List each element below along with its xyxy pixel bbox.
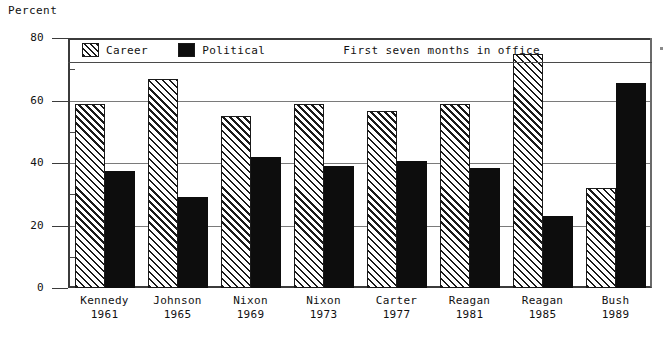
- bar-chart: Percent 020406080 Career Political First…: [0, 0, 668, 337]
- bar-group: [141, 38, 214, 288]
- bar-political: [397, 161, 427, 288]
- x-axis-label: Carter1977: [360, 294, 433, 322]
- bar-group: [579, 38, 652, 288]
- x-axis-label: Johnson1965: [141, 294, 214, 322]
- x-label-name: Nixon: [287, 294, 360, 308]
- bar-career: [513, 54, 543, 288]
- y-tick-mark: [52, 101, 68, 102]
- y-tick-label: 0: [10, 282, 44, 293]
- bar-political: [178, 197, 208, 288]
- x-label-name: Reagan: [433, 294, 506, 308]
- bar-political: [616, 83, 646, 288]
- bar-career: [294, 104, 324, 288]
- x-label-year: 1969: [214, 308, 287, 322]
- x-label-year: 1961: [68, 308, 141, 322]
- bar-career: [440, 104, 470, 288]
- bar-career: [148, 79, 178, 288]
- x-axis-label: Nixon1973: [287, 294, 360, 322]
- x-label-year: 1973: [287, 308, 360, 322]
- bar-political: [251, 157, 281, 288]
- x-label-name: Reagan: [506, 294, 579, 308]
- y-tick-label: 60: [10, 95, 44, 106]
- bar-political: [324, 166, 354, 288]
- y-tick-label: 80: [10, 32, 44, 43]
- x-label-year: 1989: [579, 308, 652, 322]
- bars-layer: [68, 38, 652, 288]
- bar-group: [68, 38, 141, 288]
- y-tick-label: 20: [10, 220, 44, 231]
- x-axis-label: Bush1989: [579, 294, 652, 322]
- y-tick-mark: [52, 163, 68, 164]
- bar-group: [506, 38, 579, 288]
- x-label-name: Kennedy: [68, 294, 141, 308]
- x-axis-labels: Kennedy1961Johnson1965Nixon1969Nixon1973…: [68, 294, 652, 334]
- bar-group: [433, 38, 506, 288]
- x-label-year: 1965: [141, 308, 214, 322]
- bar-group: [287, 38, 360, 288]
- scan-speck: [660, 47, 663, 50]
- x-axis-label: Reagan1985: [506, 294, 579, 322]
- x-label-name: Bush: [579, 294, 652, 308]
- bar-career: [586, 188, 616, 288]
- bar-political: [543, 216, 573, 288]
- bar-career: [367, 111, 397, 288]
- x-axis-label: Reagan1981: [433, 294, 506, 322]
- x-label-name: Carter: [360, 294, 433, 308]
- bar-career: [221, 116, 251, 288]
- y-axis-title: Percent: [8, 4, 57, 17]
- x-label-year: 1977: [360, 308, 433, 322]
- y-tick-label: 40: [10, 157, 44, 168]
- x-label-year: 1981: [433, 308, 506, 322]
- bar-political: [470, 168, 500, 288]
- bar-group: [360, 38, 433, 288]
- x-label-name: Johnson: [141, 294, 214, 308]
- y-tick-mark: [52, 288, 68, 289]
- x-label-name: Nixon: [214, 294, 287, 308]
- x-axis-label: Kennedy1961: [68, 294, 141, 322]
- bar-group: [214, 38, 287, 288]
- y-tick-mark: [52, 38, 68, 39]
- bar-political: [105, 171, 135, 288]
- y-tick-mark: [52, 226, 68, 227]
- x-axis-label: Nixon1969: [214, 294, 287, 322]
- x-label-year: 1985: [506, 308, 579, 322]
- bar-career: [75, 104, 105, 288]
